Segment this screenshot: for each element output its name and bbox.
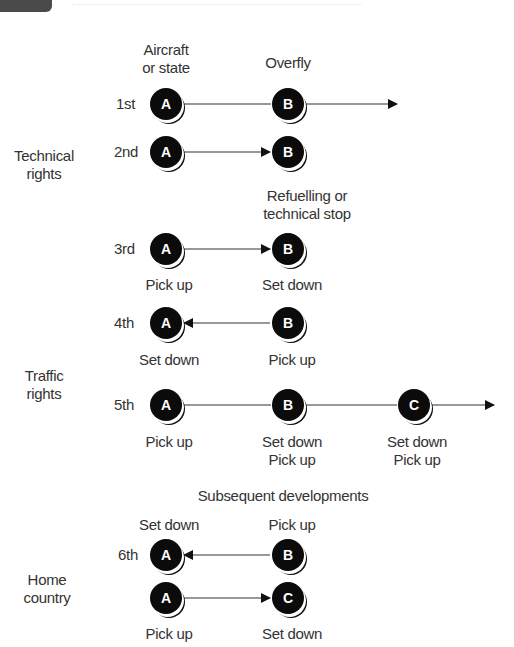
label-home-a: Pick up	[145, 625, 192, 643]
label-3rd-a: Pick up	[145, 276, 192, 294]
node-b-3rd: B	[272, 233, 304, 265]
node-a-1st: A	[150, 88, 182, 120]
label-refuelling-stop: Refuelling or technical stop	[263, 187, 351, 223]
label-5th-a: Pick up	[145, 433, 192, 451]
freedom-label-2nd: 2nd	[114, 143, 138, 161]
freedom-label-3rd: 3rd	[114, 240, 135, 258]
group-label-technical-rights: Technical rights	[14, 147, 74, 183]
node-b-1st: B	[272, 88, 304, 120]
node-b-4th: B	[272, 307, 304, 339]
label-6th-a: Set down	[139, 516, 199, 534]
freedom-label-1st: 1st	[116, 95, 135, 113]
column-header-overfly: Overfly	[265, 54, 310, 72]
column-header-origin: Aircraft or state	[142, 41, 190, 77]
connector-lines	[0, 0, 514, 647]
node-a-2nd: A	[150, 136, 182, 168]
node-a-5th: A	[150, 389, 182, 421]
freedom-label-6th: 6th	[118, 546, 138, 564]
freedom-label-4th: 4th	[114, 314, 134, 332]
label-home-c: Set down	[262, 625, 322, 643]
label-5th-b: Set down Pick up	[262, 433, 322, 469]
section-header-subsequent: Subsequent developments	[198, 487, 369, 505]
freedom-label-5th: 5th	[114, 396, 134, 414]
node-b-2nd: B	[272, 136, 304, 168]
node-a-6th: A	[150, 539, 182, 571]
label-5th-c: Set down Pick up	[387, 433, 447, 469]
label-3rd-b: Set down	[262, 276, 322, 294]
label-4th-a: Set down	[139, 351, 199, 369]
node-a-home: A	[150, 582, 182, 614]
node-a-4th: A	[150, 307, 182, 339]
node-c-5th: C	[398, 389, 430, 421]
node-a-3rd: A	[150, 233, 182, 265]
node-c-home: C	[272, 582, 304, 614]
node-b-5th: B	[272, 389, 304, 421]
group-label-traffic-rights: Traffic rights	[25, 367, 64, 403]
group-label-home-country: Home country	[23, 571, 70, 607]
node-b-6th: B	[272, 539, 304, 571]
label-6th-b: Pick up	[268, 516, 315, 534]
label-4th-b: Pick up	[268, 351, 315, 369]
